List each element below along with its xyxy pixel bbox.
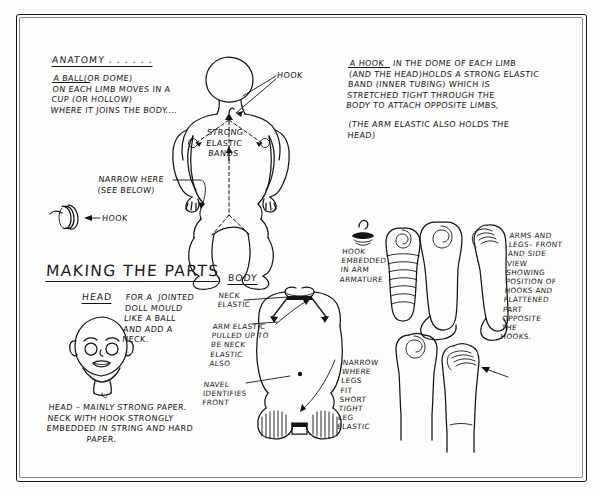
label-navel: NAVEL IDENTIFIES FRONT bbox=[202, 380, 248, 408]
callout-narrow-here: NARROW HERE (SEE BELOW) bbox=[97, 174, 164, 195]
a-ball-underline bbox=[52, 82, 90, 83]
head-note: HEAD – MAINLY STRONG PAPER. NECK WITH HO… bbox=[45, 402, 195, 444]
hook-note-paragraph: A HOOK IN THE DOME OF EACH LIMB (AND THE… bbox=[346, 58, 541, 111]
label-narrow-legs: NARROW WHERE LEGS FIT SHORT TIGHT LEG EL… bbox=[337, 358, 379, 432]
limbs-paragraph: ARMS AND LEGS– FRONT AND SIDE VIEW SHOWI… bbox=[500, 231, 563, 341]
head-label: HEAD bbox=[81, 291, 112, 304]
callout-strong-elastic-bands: STRONG ELASTIC BANDS bbox=[205, 127, 244, 159]
head-paragraph: FOR A JOINTED DOLL MOULD LIKE A BALL AND… bbox=[122, 292, 195, 345]
anatomy-heading: ANATOMY . . . . . . bbox=[51, 54, 153, 67]
callout-hook-left: HOOK bbox=[102, 213, 128, 224]
making-the-parts-heading: MAKING THE PARTS bbox=[45, 262, 219, 282]
label-neck-elastic: NECK ELASTIC bbox=[217, 291, 251, 309]
anatomy-paragraph: A BALL(OR DOME) ON EACH LIMB MOVES IN A … bbox=[50, 73, 180, 115]
label-hook-embedded: HOOK EMBEDDED IN ARM ARMATURE bbox=[339, 247, 387, 284]
hook-note-paragraph-2: (THE ARM ELASTIC ALSO HOLDS THE HEAD) bbox=[347, 119, 510, 140]
a-hook-underline bbox=[348, 67, 390, 68]
diagram-page: ANATOMY . . . . . . A BALL(OR DOME) ON E… bbox=[0, 0, 601, 494]
body-heading: BODY bbox=[227, 272, 258, 285]
callout-hook-top: HOOK bbox=[277, 70, 303, 81]
label-arm-elastic: ARM ELASTIC PULLED UP TO BE NECK ELASTIC… bbox=[209, 322, 270, 368]
